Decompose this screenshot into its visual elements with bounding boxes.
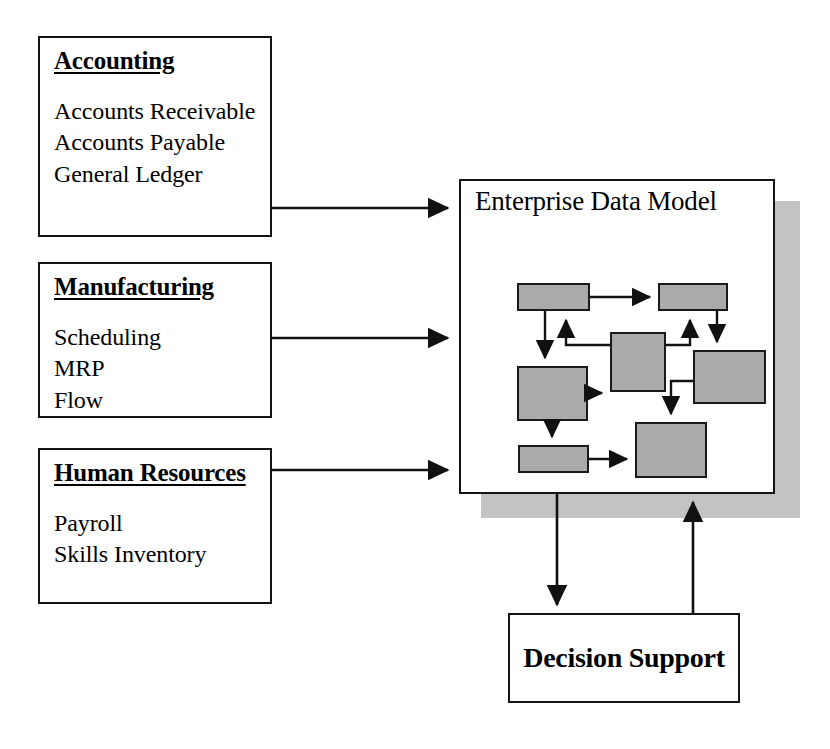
module-box-manufacturing[interactable]: Manufacturing Scheduling MRP Flow	[38, 262, 272, 418]
module-box-human-resources[interactable]: Human Resources Payroll Skills Inventory	[38, 448, 272, 604]
module-item: General Ledger	[54, 159, 270, 190]
module-items-manufacturing: Scheduling MRP Flow	[54, 322, 270, 416]
module-item: Skills Inventory	[54, 539, 270, 570]
entity-box-2[interactable]	[658, 283, 728, 311]
module-box-accounting[interactable]: Accounting Accounts Receivable Accounts …	[38, 36, 272, 237]
diagram-canvas: Accounting Accounts Receivable Accounts …	[0, 0, 830, 749]
module-item: Payroll	[54, 508, 270, 539]
entity-box-4[interactable]	[693, 350, 766, 404]
module-item: Scheduling	[54, 322, 270, 353]
module-items-accounting: Accounts Receivable Accounts Payable Gen…	[54, 96, 270, 190]
module-item: MRP	[54, 353, 270, 384]
module-item: Accounts Receivable	[54, 96, 270, 127]
entity-box-1[interactable]	[517, 283, 590, 311]
decision-support-box[interactable]: Decision Support	[508, 613, 740, 703]
module-item: Accounts Payable	[54, 127, 270, 158]
module-item: Flow	[54, 385, 270, 416]
entity-box-6[interactable]	[518, 445, 589, 473]
decision-support-label: Decision Support	[523, 642, 724, 674]
entity-box-5[interactable]	[517, 366, 588, 421]
module-title-manufacturing: Manufacturing	[54, 274, 214, 300]
entity-box-3[interactable]	[610, 332, 666, 392]
module-title-human-resources: Human Resources	[54, 460, 246, 486]
module-items-human-resources: Payroll Skills Inventory	[54, 508, 270, 570]
module-title-accounting: Accounting	[54, 48, 174, 74]
enterprise-data-model-title: Enterprise Data Model	[475, 187, 717, 217]
entity-box-7[interactable]	[635, 422, 707, 478]
